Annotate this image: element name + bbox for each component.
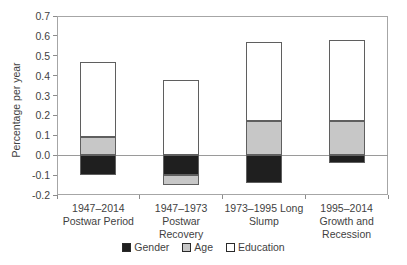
legend-label: Education (238, 241, 285, 253)
y-tick-mark (53, 135, 57, 136)
bar-segment-gender (163, 155, 199, 175)
y-tick-label: -0.2 (20, 189, 50, 201)
x-category-label-line: Growth and (292, 215, 402, 228)
bar-segment-education (80, 62, 116, 138)
x-category-label-line: Recovery (126, 228, 236, 241)
y-tick-mark (53, 75, 57, 76)
x-tick-mark (305, 195, 306, 199)
bar-segment-age (329, 121, 365, 155)
legend-label: Age (194, 241, 213, 253)
y-tick-label: 0.1 (20, 129, 50, 141)
y-tick-label: 0.5 (20, 50, 50, 62)
legend-swatch-gender (122, 243, 131, 252)
bar-segment-education (329, 40, 365, 122)
y-tick-mark (53, 35, 57, 36)
legend-item-age: Age (182, 241, 213, 253)
legend-swatch-education (226, 243, 235, 252)
x-tick-mark (388, 195, 389, 199)
y-tick-label: -0.1 (20, 169, 50, 181)
y-tick-label: 0.7 (20, 10, 50, 22)
legend-swatch-age (182, 243, 191, 252)
bar-segment-gender (80, 155, 116, 175)
y-tick-mark (53, 155, 57, 156)
y-tick-mark (53, 55, 57, 56)
x-tick-mark (222, 195, 223, 199)
y-tick-label: 0.2 (20, 109, 50, 121)
y-tick-mark (53, 115, 57, 116)
bar-segment-education (246, 42, 282, 122)
x-tick-mark (57, 195, 58, 199)
bar-segment-education (163, 80, 199, 156)
x-tick-mark (139, 195, 140, 199)
y-tick-label: 0.6 (20, 30, 50, 42)
y-tick-mark (53, 95, 57, 96)
legend-item-gender: Gender (122, 241, 169, 253)
y-tick-label: 0.0 (20, 149, 50, 161)
y-tick-label: 0.4 (20, 70, 50, 82)
stacked-bar-chart: Percentage per year 0.70.60.50.40.30.20.… (0, 0, 407, 265)
legend-label: Gender (134, 241, 169, 253)
bar-segment-gender (246, 155, 282, 183)
x-category-label-line: 1995–2014 (292, 202, 402, 215)
x-category-label: 1995–2014Growth andRecession (292, 202, 402, 241)
x-category-label-line: Recession (292, 228, 402, 241)
y-tick-label: 0.3 (20, 90, 50, 102)
y-tick-mark (53, 16, 57, 17)
legend-item-education: Education (226, 241, 285, 253)
bar-segment-age (163, 175, 199, 185)
legend: GenderAgeEducation (0, 241, 407, 253)
y-tick-mark (53, 175, 57, 176)
bar-segment-age (80, 137, 116, 155)
bar-segment-gender (329, 155, 365, 163)
bar-segment-age (246, 121, 282, 155)
